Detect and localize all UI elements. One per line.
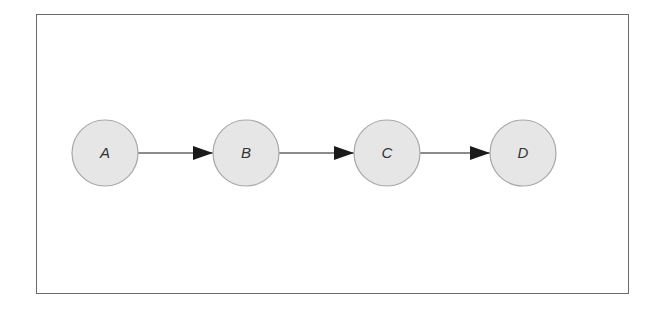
diagram-canvas: A B C D <box>0 0 659 315</box>
node-c: C <box>354 120 420 186</box>
node-a: A <box>72 120 138 186</box>
node-a-label: A <box>99 144 110 161</box>
node-b-label: B <box>241 144 251 161</box>
node-d: D <box>490 120 556 186</box>
node-b: B <box>213 120 279 186</box>
node-c-label: C <box>382 144 393 161</box>
node-d-label: D <box>518 144 529 161</box>
